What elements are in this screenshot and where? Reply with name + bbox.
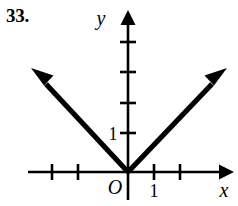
- graph-left-arrowhead-icon: [31, 68, 54, 86]
- y-unit-label: 1: [109, 124, 118, 144]
- x-axis-arrowhead-icon: [219, 165, 234, 180]
- graph-right-arrowhead-icon: [205, 68, 228, 86]
- graph-figure-screenshot: 33. y x O 1 1: [0, 0, 238, 206]
- x-axis-label: x: [219, 179, 229, 201]
- y-axis-label: y: [95, 7, 106, 30]
- origin-label: O: [108, 176, 122, 198]
- y-axis-arrowhead-icon: [121, 10, 136, 25]
- x-unit-label: 1: [150, 181, 159, 201]
- graph-right-arm: [128, 84, 212, 172]
- coordinate-graph: y x O 1 1: [0, 0, 238, 206]
